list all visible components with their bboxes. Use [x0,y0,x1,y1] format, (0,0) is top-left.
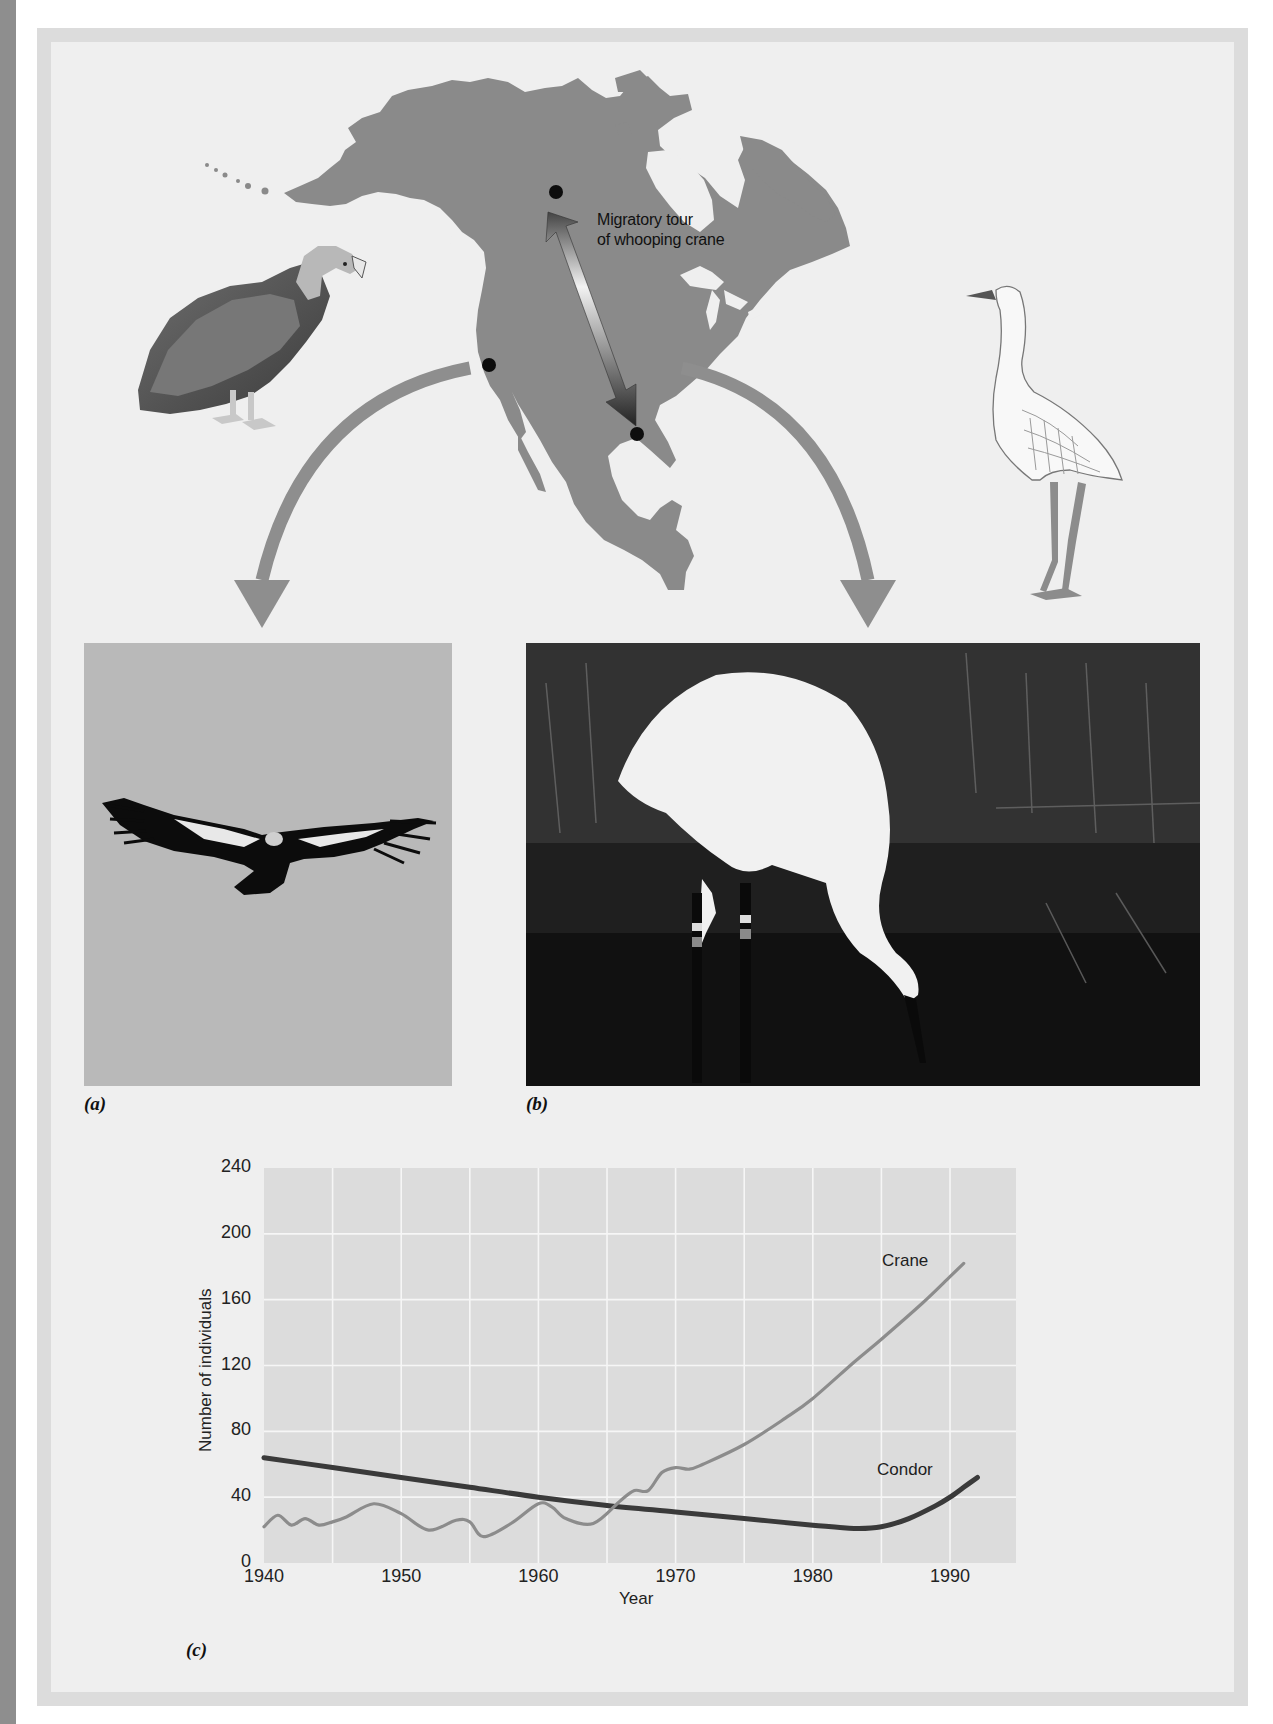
y-tick-label: 200 [191,1222,251,1243]
x-tick-label: 1980 [773,1566,853,1587]
panel-label-c: (c) [186,1639,207,1661]
x-tick-label: 1990 [910,1566,990,1587]
chart-plot-area [0,0,1273,1724]
condor-series-label: Condor [877,1460,933,1480]
y-tick-label: 240 [191,1156,251,1177]
x-tick-label: 1960 [498,1566,578,1587]
x-tick-label: 1940 [224,1566,304,1587]
population-chart: 04080120160200240 1940195019601970198019… [0,0,1273,1724]
x-axis-title: Year [619,1589,653,1609]
y-tick-label: 40 [191,1485,251,1506]
x-tick-label: 1950 [361,1566,441,1587]
y-axis-title: Number of individuals [196,1289,216,1452]
crane-series-label: Crane [882,1251,928,1271]
x-tick-label: 1970 [636,1566,716,1587]
